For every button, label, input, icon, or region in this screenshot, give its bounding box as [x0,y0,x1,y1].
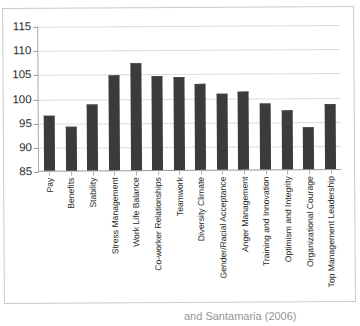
x-tick-slot [299,170,321,174]
bar [238,91,249,169]
x-label-slot: Work Life Balance [126,177,148,307]
x-axis-category-label: Stress Management [111,177,120,254]
bar-slot [124,26,146,170]
y-axis-tick-label: 90 [19,142,32,154]
x-axis-tick [266,170,267,174]
x-axis-category-label: Optimism and Integrity [284,176,293,262]
x-label-slot: Stability [82,177,104,307]
y-axis-tick-label: 85 [19,166,32,178]
bar [195,84,207,170]
x-tick-slot [82,171,104,175]
x-label-slot: Gender/Racial Acceptance [212,177,234,307]
bar-slot [276,25,298,169]
x-tick-slot [277,170,299,174]
y-axis-tick-label: 110 [13,45,31,57]
x-tick-slot [191,171,213,175]
y-axis-tick-label: 95 [19,118,32,130]
x-axis-category-label: Co-worker Relationships [154,177,163,271]
x-axis-category-label: Top Management Leadership [327,176,336,287]
x-axis-tick [136,171,137,175]
caption-text: and Santamaria (2006) [184,311,297,322]
x-axis-tick [114,171,115,175]
bar [152,76,164,170]
bar-slot [254,25,276,169]
bar-slot [168,26,190,170]
x-axis-category-label: Training and Innovation [262,176,271,266]
x-tick-slot [320,170,342,174]
x-label-slot: Top Management Leadership [320,176,342,306]
x-label-slot: Co-worker Relationships [147,177,169,307]
x-tick-slot [126,171,148,175]
x-label-slot: Training and Innovation [255,176,277,306]
x-axis-tick [49,172,50,176]
x-axis-category-label: Teamwork [175,177,184,216]
bar [66,126,77,171]
bar [303,127,314,169]
x-tick-slot [39,172,61,176]
bar [216,93,227,169]
x-axis-category-label: Pay [46,178,55,193]
bar-slot [297,25,319,169]
bar-slot [189,26,211,170]
x-axis-ticks [39,170,342,176]
x-label-slot: Stress Management [104,177,126,307]
x-tick-slot [212,171,234,175]
bar [281,110,292,169]
bar-slot [146,26,168,170]
bar-slot [211,26,233,170]
x-label-slot: Optimism and Integrity [277,176,299,306]
x-tick-slot [169,171,191,175]
bar [130,63,142,170]
x-axis-tick [201,171,202,175]
y-axis-tick-label: 115 [13,21,31,33]
bar-slot [319,25,341,169]
x-axis-tick [331,170,332,174]
bar [87,104,98,170]
bar [260,104,271,170]
y-axis: 115110105100959085 [0,27,32,172]
x-label-slot: Anger Management [234,177,256,307]
x-axis-category-label: Gender/Racial Acceptance [219,177,228,279]
x-axis-labels: PayBenefitsStabilityStress ManagementWor… [39,176,343,308]
x-tick-slot [234,171,256,175]
x-axis-tick [287,170,288,174]
bar [173,77,185,170]
x-axis-category-label: Work Life Balance [132,177,141,247]
x-label-slot: Pay [39,178,61,308]
x-label-slot: Benefits [61,178,83,308]
y-axis-tick-label: 100 [12,94,31,106]
x-axis-tick [71,172,72,176]
x-axis-tick [158,171,159,175]
y-axis-tick-label: 105 [12,69,31,81]
x-axis-tick [93,172,94,176]
bar-slot [38,27,60,171]
x-axis-tick [179,171,180,175]
x-axis-category-label: Anger Management [240,177,249,253]
bar [108,75,120,170]
x-axis-tick [222,171,223,175]
bar-slot [81,26,103,170]
x-axis-tick [309,170,310,174]
bar-series [38,25,341,171]
x-axis-category-label: Diversity Climate [197,177,206,242]
bar [324,104,335,169]
bar-slot [60,27,82,171]
plot-area [37,25,341,172]
x-axis-tick [244,171,245,175]
x-axis-category-label: Stability [89,178,98,208]
x-tick-slot [104,171,126,175]
x-tick-slot [61,172,83,176]
bar-slot [103,26,125,170]
figure-caption: and Santamaria (2006) [0,311,360,326]
x-axis-category-label: Benefits [67,178,76,209]
x-tick-slot [147,171,169,175]
x-label-slot: Diversity Climate [191,177,213,307]
x-tick-slot [255,170,277,174]
x-label-slot: Organizational Courage [299,176,321,306]
bar-chart: 115110105100959085 PayBenefitsStabilityS… [0,0,360,326]
x-axis-category-label: Organizational Courage [305,176,314,267]
bar [44,116,55,171]
bar-slot [232,26,254,170]
x-label-slot: Teamwork [169,177,191,307]
